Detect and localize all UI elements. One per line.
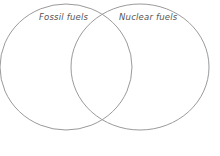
fossil-fuels-label: Fossil fuels <box>39 12 88 22</box>
venn-svg <box>0 0 220 156</box>
fossil-fuels-circle <box>0 4 132 130</box>
nuclear-fuels-label: Nuclear fuels <box>119 12 177 22</box>
venn-diagram: Fossil fuels Nuclear fuels <box>0 0 220 156</box>
nuclear-fuels-circle <box>71 4 209 130</box>
